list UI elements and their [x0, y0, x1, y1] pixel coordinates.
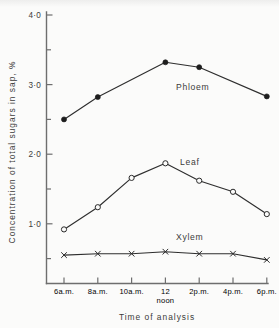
y-axis-tick-labels: 4·0 3·0 2·0 1·0	[29, 11, 42, 229]
series-leaf-marker	[264, 212, 269, 217]
series-leaf-marker	[129, 175, 134, 180]
series-label-xylem: Xylem	[176, 232, 203, 242]
y-tick-label-1: 1·0	[29, 220, 42, 229]
x-tick-label-2pm: 2p.m.	[189, 287, 209, 296]
y-tick-label-2: 2·0	[29, 150, 42, 159]
y-axis-title: Concentration of total sugars in sap, %	[7, 61, 17, 244]
series-label-leaf: Leaf	[180, 157, 200, 167]
series-phloem: Phloem	[62, 60, 270, 122]
x-tick-label-8am: 8a.m.	[88, 287, 108, 296]
series-phloem-marker	[197, 65, 202, 70]
series-phloem-marker	[95, 95, 100, 100]
chart-figure: 4·0 3·0 2·0 1·0 6a.m. 8a.m. 10a.m. 12 no…	[0, 0, 279, 328]
series-phloem-line	[64, 62, 267, 119]
y-tick-label-3: 3·0	[29, 81, 42, 90]
y-tick-label-4: 4·0	[29, 11, 42, 20]
series-label-phloem: Phloem	[176, 82, 209, 92]
x-tick-label-12: 12	[161, 287, 170, 296]
x-axis-title: Time of analysis	[119, 312, 195, 322]
series-phloem-marker	[163, 60, 168, 65]
x-tick-label-6pm: 6p.m.	[257, 287, 277, 296]
line-chart-plot: 4·0 3·0 2·0 1·0 6a.m. 8a.m. 10a.m. 12 no…	[0, 0, 279, 328]
series-phloem-marker	[264, 94, 269, 99]
series-leaf-line	[64, 163, 267, 229]
series-leaf-marker	[197, 178, 202, 183]
x-axis-ticks	[64, 278, 267, 284]
x-tick-label-4pm: 4p.m.	[223, 287, 243, 296]
x-axis-tick-labels: 6a.m. 8a.m. 10a.m. 12 noon 2p.m. 4p.m. 6…	[54, 287, 277, 305]
x-tick-label-6am: 6a.m.	[54, 287, 74, 296]
series-leaf: Leaf	[61, 157, 269, 232]
series-xylem: Xylem	[61, 232, 269, 263]
series-leaf-marker	[95, 205, 100, 210]
series-leaf-marker	[61, 227, 66, 232]
y-axis-ticks	[47, 15, 53, 259]
series-leaf-marker	[230, 189, 235, 194]
x-tick-label-10am: 10a.m.	[119, 287, 143, 296]
series-phloem-marker	[62, 117, 67, 122]
series-leaf-marker	[163, 161, 168, 166]
series-xylem-line	[64, 252, 267, 260]
x-tick-sublabel-noon: noon	[157, 296, 175, 305]
